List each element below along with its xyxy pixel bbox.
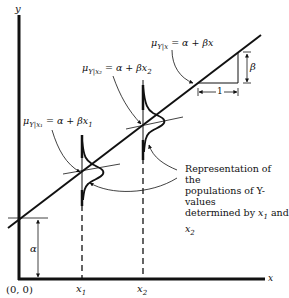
regression-diagram bbox=[0, 0, 289, 298]
x2-tick-label: x2 bbox=[137, 284, 147, 297]
eq-sub: Y|x₂ bbox=[88, 68, 102, 76]
x-axis-label: x bbox=[268, 274, 273, 283]
x1-tick-label: x1 bbox=[76, 284, 86, 297]
run-label: 1 bbox=[216, 87, 224, 96]
eq-sub: Y|x bbox=[157, 43, 168, 51]
x2-normal-curve bbox=[143, 86, 164, 152]
x2-equation: μY|x₂ = α + βx2 bbox=[82, 63, 152, 76]
origin-label: (0, 0) bbox=[6, 285, 33, 295]
x2-sub: 2 bbox=[143, 289, 147, 297]
x2-pop-arrow bbox=[149, 145, 177, 170]
x1-sub: 1 bbox=[82, 289, 86, 297]
beta-label: β bbox=[250, 62, 256, 72]
general-eq-pointer bbox=[172, 50, 193, 83]
eq-rhs: = α + βx bbox=[43, 115, 88, 126]
eq-rhs-sub: 2 bbox=[147, 68, 151, 76]
annotation-and: and bbox=[268, 207, 289, 218]
annotation-line-2: populations of Y-values bbox=[185, 185, 289, 207]
x2-eq-pointer bbox=[113, 76, 141, 124]
annotation-prefix: determined by bbox=[185, 207, 258, 218]
y-axis-label: y bbox=[15, 4, 21, 14]
annotation-line-1: Representation of the bbox=[185, 163, 289, 185]
x1-equation: μY|x₁ = α + βx1 bbox=[23, 116, 93, 129]
alpha-label: α bbox=[30, 244, 37, 254]
annotation-sub2: 2 bbox=[190, 229, 194, 237]
x2-tangent bbox=[126, 117, 183, 129]
eq-rhs: = α + βx bbox=[102, 62, 147, 73]
eq-rhs: = α + βx bbox=[168, 37, 213, 48]
x1-eq-pointer bbox=[52, 130, 80, 172]
general-equation: μY|x = α + βx bbox=[151, 38, 213, 51]
population-annotation: Representation of the populations of Y-v… bbox=[185, 163, 289, 239]
eq-rhs-sub: 1 bbox=[88, 121, 92, 129]
x1-pop-arrow bbox=[90, 178, 177, 191]
annotation-line-3: determined by x1 and x2 bbox=[185, 207, 289, 239]
eq-sub: Y|x₁ bbox=[29, 121, 43, 129]
